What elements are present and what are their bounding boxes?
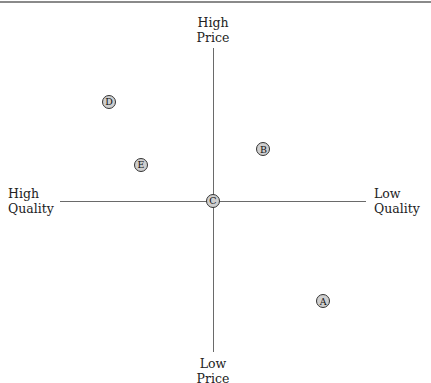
axis-label-low-quality: Low Quality xyxy=(374,186,420,216)
axis-label-line: High xyxy=(8,186,54,201)
point-label: A xyxy=(320,297,327,307)
axis-label-line: Quality xyxy=(8,201,54,216)
axis-label-line: Low xyxy=(197,356,230,371)
point-label: E xyxy=(138,160,145,170)
point-label: D xyxy=(105,97,113,107)
axis-label-high-price: High Price xyxy=(197,15,230,45)
point-a: A xyxy=(316,294,330,308)
axis-label-low-price: Low Price xyxy=(197,356,230,383)
axis-label-line: Price xyxy=(197,371,230,383)
point-e: E xyxy=(134,158,148,172)
axis-label-line: High xyxy=(197,15,230,30)
axis-label-high-quality: High Quality xyxy=(8,186,54,216)
point-label: C xyxy=(209,196,216,206)
point-label: B xyxy=(260,145,267,155)
axis-label-line: Quality xyxy=(374,201,420,216)
point-c: C xyxy=(206,194,220,208)
top-rule xyxy=(0,1,431,3)
point-b: B xyxy=(256,142,270,156)
axis-label-line: Price xyxy=(197,30,230,45)
axis-label-line: Low xyxy=(374,186,420,201)
point-d: D xyxy=(102,95,116,109)
